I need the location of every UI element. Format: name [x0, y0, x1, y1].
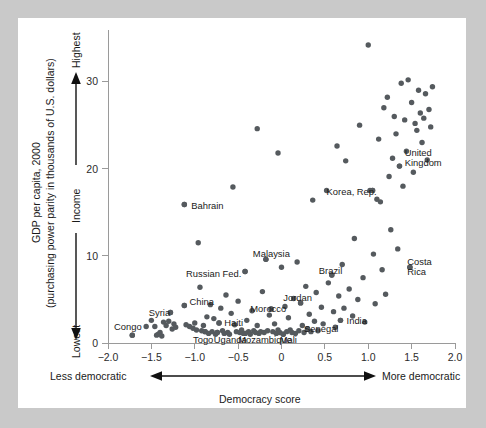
- data-point: [228, 311, 233, 316]
- data-point: [346, 286, 351, 291]
- data-point: [255, 323, 260, 328]
- x-tick-label: 1.0: [361, 351, 376, 363]
- data-point: [426, 107, 431, 112]
- point-label: Bahrain: [191, 200, 223, 211]
- data-point: [279, 264, 284, 269]
- point-label: Brazil: [319, 265, 342, 276]
- point-label: CostaRica: [407, 256, 432, 277]
- data-point: [166, 319, 171, 324]
- data-point: [419, 140, 424, 145]
- data-point: [393, 131, 398, 136]
- data-point: [230, 184, 235, 189]
- figure-card: GDP per capita, 2000 (purchasing power p…: [18, 18, 466, 408]
- data-point: [307, 312, 312, 317]
- data-point: [218, 305, 223, 310]
- data-point: [381, 105, 386, 110]
- data-point: [392, 114, 397, 119]
- data-point-labeled: [338, 318, 343, 323]
- y-axis-ticks: 0102030: [86, 75, 108, 348]
- data-point: [357, 122, 362, 127]
- x-tick-label: 0.5: [318, 351, 333, 363]
- data-point: [409, 100, 414, 105]
- data-point: [265, 328, 270, 333]
- data-point: [294, 259, 299, 264]
- data-point: [272, 321, 277, 326]
- x-left-label: Less democratic: [50, 370, 126, 382]
- data-point-labeled: [182, 303, 187, 308]
- point-label: UnitedKingdom: [405, 147, 442, 168]
- data-point: [196, 240, 201, 245]
- point-label: Togo: [193, 334, 213, 345]
- data-point: [159, 333, 164, 338]
- data-point: [428, 124, 433, 129]
- data-point-labeled: [242, 269, 247, 274]
- point-label: Jordan: [283, 292, 312, 303]
- data-point: [405, 77, 410, 82]
- y-tick-label: 20: [86, 163, 98, 175]
- data-point: [372, 301, 377, 306]
- x-axis-ticks: −2.0−1.5−1.0−0.500.51.01.52.0: [98, 343, 463, 363]
- data-point: [390, 156, 395, 161]
- y-direction-label: Income: [70, 188, 82, 223]
- x-tick-label: 1.5: [404, 351, 419, 363]
- democracy-arrow-head-left: [150, 371, 162, 381]
- data-point: [411, 170, 416, 175]
- point-label: India: [347, 315, 368, 326]
- data-point: [355, 297, 360, 302]
- data-point: [143, 324, 148, 329]
- point-label: Senegal: [304, 323, 338, 334]
- data-point: [149, 318, 154, 323]
- data-point: [360, 275, 365, 280]
- data-point: [414, 128, 419, 133]
- y-tick-label: 10: [86, 250, 98, 262]
- scatter-plot: GDP per capita, 2000 (purchasing power p…: [18, 18, 466, 408]
- data-point: [352, 236, 357, 241]
- data-point: [235, 298, 240, 303]
- data-point: [341, 305, 346, 310]
- x-tick-label: −0.5: [228, 351, 249, 363]
- data-point: [319, 305, 324, 310]
- data-point-labeled: [216, 320, 221, 325]
- point-labels-layer: CongoSyriaChinaTogoUgandaHaitiMozambique…: [114, 147, 442, 346]
- y-tick-label: 0: [92, 337, 98, 349]
- point-label: Korea, Rep.: [327, 186, 377, 197]
- point-label: Mali: [280, 334, 297, 345]
- data-point: [386, 174, 391, 179]
- data-point: [430, 84, 435, 89]
- x-tick-label: 0: [279, 351, 285, 363]
- data-point: [385, 95, 390, 100]
- y-axis-title-line2: (purchasing power parity in thousands of…: [44, 58, 56, 308]
- point-label: China: [190, 296, 215, 307]
- data-point: [211, 316, 216, 321]
- data-point: [423, 91, 428, 96]
- data-point: [260, 289, 265, 294]
- data-point: [336, 293, 341, 298]
- data-point: [310, 197, 315, 202]
- data-point: [192, 320, 197, 325]
- y-tick-label: 30: [86, 75, 98, 87]
- data-point: [400, 183, 405, 188]
- data-point: [383, 292, 388, 297]
- x-tick-label: −1.0: [184, 351, 205, 363]
- data-point: [326, 280, 331, 285]
- data-point-labeled: [182, 202, 187, 207]
- data-point: [371, 251, 376, 256]
- data-point-labeled: [397, 163, 402, 168]
- x-right-label: More democratic: [382, 370, 460, 382]
- point-label: Malaysia: [253, 248, 291, 259]
- data-point: [244, 318, 249, 323]
- democracy-arrow-head-right: [364, 371, 376, 381]
- x-tick-label: 2.0: [448, 351, 463, 363]
- data-point-labeled: [130, 332, 135, 337]
- point-label: Syria: [149, 307, 171, 318]
- data-point: [255, 126, 260, 131]
- y-axis-title-line1: GDP per capita, 2000: [30, 142, 42, 243]
- point-label: Haiti: [224, 317, 243, 328]
- data-point: [421, 115, 426, 120]
- x-axis-title: Democracy score: [219, 393, 301, 405]
- income-arrow-head-up: [71, 72, 81, 84]
- data-point: [402, 117, 407, 122]
- data-point: [331, 309, 336, 314]
- data-point: [275, 150, 280, 155]
- data-point: [416, 88, 421, 93]
